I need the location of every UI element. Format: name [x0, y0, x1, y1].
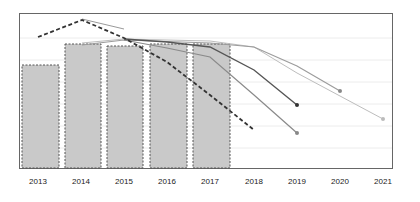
marker-forecast-a-2019 [295, 103, 299, 107]
x-tick-label: 2013 [29, 177, 47, 186]
x-tick-label: 2017 [201, 177, 219, 186]
marker-forecast-b-2019 [295, 131, 299, 135]
bar-2013 [22, 65, 59, 168]
x-tick-label: 2016 [158, 177, 176, 186]
x-tick-label: 2015 [115, 177, 133, 186]
bar-2015 [107, 46, 143, 168]
x-axis: 2013 2014 2015 2016 2017 2018 2019 2020 … [29, 177, 392, 186]
bar-2014 [65, 44, 101, 168]
x-tick-label: 2021 [374, 177, 392, 186]
x-tick-label: 2019 [288, 177, 306, 186]
x-tick-label: 2018 [245, 177, 263, 186]
marker-forecast-d-2021 [381, 117, 385, 121]
x-tick-label: 2014 [72, 177, 90, 186]
chart: 2013 2014 2015 2016 2017 2018 2019 2020 … [0, 0, 420, 202]
x-tick-label: 2020 [331, 177, 349, 186]
bar-2017 [193, 44, 230, 168]
marker-forecast-c-2020 [338, 89, 342, 93]
